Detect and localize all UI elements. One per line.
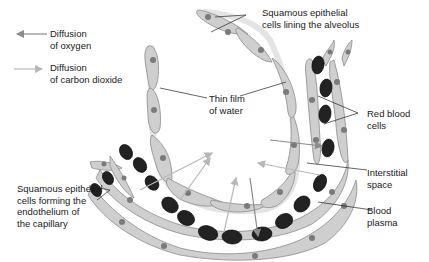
legend-co2-label: Diffusion of carbon dioxide [50, 62, 122, 85]
legend-oxygen-label: Diffusion of oxygen [50, 28, 91, 51]
label-blood-plasma: Blood plasma [367, 205, 398, 228]
label-red-blood-cells: Red blood cells [367, 108, 410, 131]
label-endothelium-cells: Squamous epithelial cells forming the en… [17, 183, 103, 229]
label-alveolus-cells: Squamous epithelial cells lining the alv… [262, 7, 359, 30]
label-interstitial-space: Interstitial space [367, 167, 408, 190]
label-water-film: Thin film of water [209, 93, 245, 116]
